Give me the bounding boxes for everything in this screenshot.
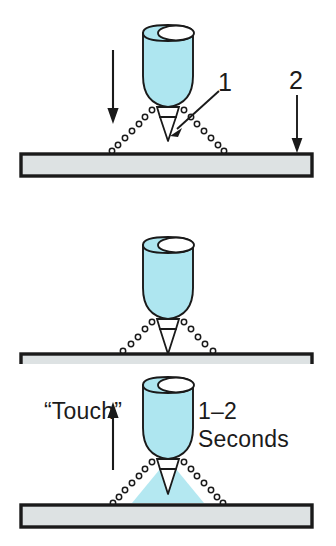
panel-touch-drawing <box>0 182 336 364</box>
electrode-tip <box>160 329 176 354</box>
panel-retract-drawing <box>0 364 336 546</box>
panel-touch: “Touch” 1–2 Seconds <box>0 182 336 364</box>
callout-2-leader <box>292 95 303 153</box>
torch-body <box>143 25 194 107</box>
down-arrow-icon <box>107 50 118 124</box>
panel-retract <box>0 364 336 546</box>
figure-canvas: 1 2 <box>0 0 336 546</box>
panel-approach-drawing <box>0 0 336 182</box>
nozzle-collar <box>157 319 179 329</box>
up-arrow-icon <box>107 402 118 470</box>
spark-spray-right <box>181 107 226 153</box>
torch-body <box>143 237 194 319</box>
electrode-tip <box>160 117 176 141</box>
workpiece-plate <box>21 154 312 176</box>
nozzle-collar <box>157 107 179 117</box>
callout-label-2: 2 <box>289 68 303 93</box>
workpiece-plate <box>21 354 312 364</box>
spark-spray-left <box>120 319 154 353</box>
torch-body <box>143 377 194 459</box>
callout-label-1: 1 <box>218 70 232 95</box>
workpiece-plate <box>21 505 312 527</box>
panel-approach: 1 2 <box>0 0 336 182</box>
nozzle-collar <box>157 459 179 469</box>
spark-spray-right <box>181 319 215 353</box>
